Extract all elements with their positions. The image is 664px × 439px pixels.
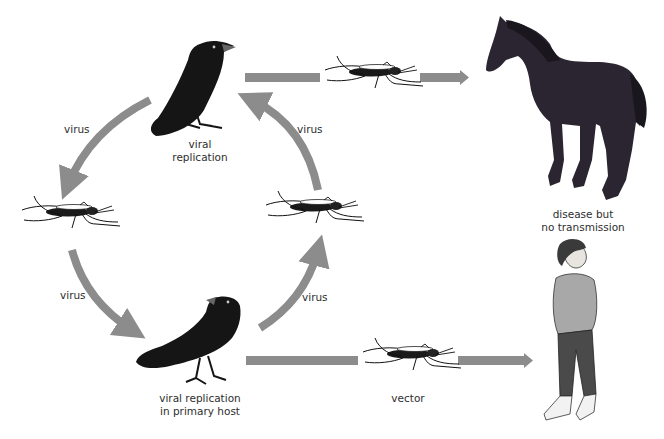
- label-line: replication: [165, 151, 235, 164]
- straight-arrows: [245, 70, 533, 368]
- label-vector: vector: [383, 392, 433, 405]
- cycle-arrows: [68, 100, 318, 330]
- arrow-mosquito-to-horse: [460, 70, 469, 85]
- crow-icon: [136, 296, 241, 384]
- label-disease-no-transmission: disease but no transmission: [528, 208, 638, 234]
- label-line: disease but: [528, 208, 638, 221]
- arrow-mosquito-to-human: [524, 353, 533, 368]
- arrow-bird-to-mosquito-top: [245, 73, 320, 82]
- human-icon: [544, 239, 597, 420]
- arrow-bottom-right-arc: [260, 250, 318, 328]
- label-line: no transmission: [528, 221, 638, 234]
- label-viral-replication: viral replication: [165, 138, 235, 164]
- arrow-top-right-arc: [252, 100, 318, 190]
- mosquito-icon: [363, 338, 461, 370]
- label-virus-bottom-right: virus: [302, 291, 328, 304]
- label-virus-top-right: virus: [297, 123, 323, 136]
- label-virus-bottom-left: virus: [60, 289, 86, 302]
- label-viral-replication-primary-host: viral replication in primary host: [145, 392, 255, 418]
- arrow-bird-to-mosquito-bottom: [246, 356, 358, 365]
- arrow-top-left-arc: [68, 100, 150, 185]
- crow-icon: [151, 41, 236, 136]
- transmission-cycle-diagram: virus virus virus virus viral replicatio…: [0, 0, 664, 439]
- mosquito-icon: [22, 196, 120, 228]
- label-line: in primary host: [145, 405, 255, 418]
- label-line: viral: [165, 138, 235, 151]
- label-line: viral replication: [145, 392, 255, 405]
- label-virus-top-left: virus: [64, 123, 90, 136]
- horse-icon: [486, 16, 647, 200]
- mosquito-icon: [266, 191, 364, 223]
- mosquito-icon: [325, 56, 423, 88]
